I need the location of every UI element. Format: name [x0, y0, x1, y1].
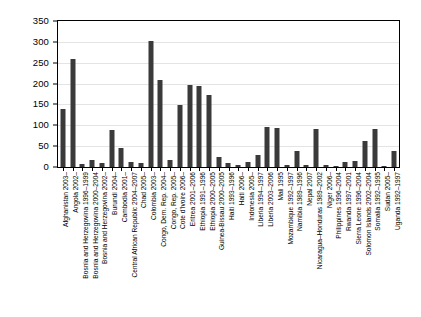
x-axis-tick-label-text: Uganda 1992–1997	[393, 172, 400, 230]
x-axis-tick-label-text: Bosnia and Herzegovina 2000–2004	[91, 172, 98, 279]
x-axis-tick-mark	[394, 168, 395, 171]
x-axis-tick-label: Sierra Leone 1996–2004	[358, 99, 365, 172]
x-axis-tick-label-text: Rwanda 1997–2001	[345, 172, 352, 231]
x-axis-tick-mark	[112, 168, 113, 171]
y-axis-tick-label: 200	[33, 79, 49, 89]
x-axis-tick-label-text: Liberia 1994–1997	[257, 172, 264, 227]
x-axis-tick-label-text: Ethiopia 2000–2005	[208, 172, 215, 231]
x-axis-tick-label: Guinea-Bissau 2000–2005	[221, 94, 228, 172]
x-axis-tick-label: Rwanda 1997–2001	[348, 113, 355, 172]
x-axis-tick-label: Liberia 2003–2006	[270, 117, 277, 172]
x-axis-tick-label-text: Cote d'Ivoire 2006–	[179, 172, 186, 229]
x-axis-tick-mark	[248, 168, 249, 171]
x-axis-tick-label-text: Afghanistan 2003–	[62, 172, 69, 227]
x-axis-tick-label: Mali 1995	[280, 143, 287, 172]
x-axis-tick-mark	[190, 168, 191, 171]
y-axis-tick-mark	[53, 104, 57, 105]
x-axis-tick-label-text: Chad 2005–	[140, 172, 147, 208]
x-axis-tick-mark	[92, 168, 93, 171]
y-axis-tick-label: 300	[33, 37, 49, 47]
x-axis-tick-label-text: Solomon Islands 2002–2004	[364, 172, 371, 256]
x-axis-tick-mark	[82, 168, 83, 171]
x-axis-tick-label: Eritrea 2001–2006	[192, 118, 199, 172]
x-axis-tick-label: Solomon Islands 2002–2004	[368, 88, 375, 172]
x-axis-tick-mark	[219, 168, 220, 171]
x-axis-tick-label-text: Mozambique 1992–1997	[286, 172, 293, 245]
x-axis-tick-label-text: Colombia 2003–	[150, 172, 157, 220]
x-axis-tick-mark	[209, 168, 210, 171]
x-axis-tick-label: Indonesia 2005–	[251, 123, 258, 172]
y-axis-tick-mark	[53, 167, 57, 168]
x-axis-tick-label: Nicaragua–Honduras 1989–2002	[319, 75, 326, 172]
y-axis-tick-label: 350	[33, 16, 49, 26]
bar-chart: 050100150200250300350 Afghanistan 2003–A…	[0, 0, 421, 317]
x-axis-tick-label: Congo, Dem. Rep. 2004–	[163, 97, 170, 172]
x-axis-tick-label: Bosnia and Herzegovina 2000–2004	[95, 65, 102, 172]
x-axis-tick-mark	[355, 168, 356, 171]
x-axis-tick-label: Bosnia and Herzegovina 2002–	[104, 80, 111, 172]
x-axis-tick-label-text: Indonesia 2005–	[247, 172, 254, 221]
x-axis-tick-label-text: Bosnia and Herzegovina 2002–	[101, 172, 108, 264]
x-axis-tick-label-text: Bosnia and Herzegovina 1996–1999	[81, 172, 88, 279]
x-axis-tick-label: Philippines 1996–2004	[338, 105, 345, 172]
y-axis-tick-label: 0	[44, 162, 49, 172]
x-axis-tick-mark	[229, 168, 230, 171]
x-axis-tick-label-text: Central African Republic 2004–2007	[130, 172, 137, 278]
x-axis-tick-mark	[336, 168, 337, 171]
x-axis-tick-label: Nepal 2007	[309, 138, 316, 172]
x-axis-tick-label-text: Somalia 1992–1995	[374, 172, 381, 231]
x-axis-tick-label-text: Mali 1995	[276, 172, 283, 201]
x-axis-tick-mark	[306, 168, 307, 171]
x-axis-tick-label: Cote d'Ivoire 2006–	[182, 115, 189, 172]
x-axis-tick-label: Haiti 1993–1996	[231, 124, 238, 172]
x-axis-tick-mark	[160, 168, 161, 171]
x-axis-tick-label: Afghanistan 2003–	[65, 117, 72, 172]
x-axis-tick-label-text: Nicaragua–Honduras 1989–2002	[315, 172, 322, 269]
x-axis-tick-mark	[326, 168, 327, 171]
x-axis-tick-mark	[141, 168, 142, 171]
x-axis-tick-mark	[238, 168, 239, 171]
x-axis-tick-mark	[73, 168, 74, 171]
x-axis-tick-label: Namibia 1989–1996	[299, 113, 306, 172]
x-axis-tick-label: Haiti 2006–	[241, 139, 248, 172]
y-axis-tick-mark	[53, 41, 57, 42]
x-axis-tick-label: Central African Republic 2004–2007	[134, 66, 141, 172]
x-axis-tick-mark	[131, 168, 132, 171]
x-axis-tick-mark	[297, 168, 298, 171]
x-axis-tick-mark	[277, 168, 278, 171]
x-axis-tick-label: Chad 2005–	[143, 136, 150, 172]
y-axis-tick-mark	[53, 62, 57, 63]
x-axis-tick-label-text: Eritrea 2001–2006	[189, 172, 196, 226]
x-axis-tick-mark	[287, 168, 288, 171]
x-axis-tick-label-text: Congo, Dem. Rep. 2004–	[159, 172, 166, 247]
y-axis-tick-mark	[53, 83, 57, 84]
x-axis-tick-label: Burundi 2004–	[114, 129, 121, 172]
x-axis-tick-mark	[151, 168, 152, 171]
x-axis-tick-mark	[267, 168, 268, 171]
x-axis-tick-label: Colombia 2003–	[153, 124, 160, 172]
x-axis-tick-label-text: Niger 2006–	[325, 172, 332, 208]
x-axis-tick-label: Somalia 1992–1995	[377, 113, 384, 172]
x-axis-tick-label-text: Nepal 2007	[306, 172, 313, 206]
x-axis-tick-label: Sudan 2005–	[387, 133, 394, 172]
x-axis-tick-label: Niger 2006–	[329, 136, 336, 172]
x-axis-tick-label: Ethiopia 2000–2005	[212, 113, 219, 172]
x-axis-tick-label-text: Ethiopia 1991–1996	[198, 172, 205, 231]
x-axis-tick-mark	[102, 168, 103, 171]
x-axis-tick-mark	[375, 168, 376, 171]
x-axis-tick-label-text: Namibia 1989–1996	[296, 172, 303, 231]
x-axis-tick-label: Liberia 1994–1997	[260, 117, 267, 172]
x-axis-tick-label: Ethiopia 1991–1996	[202, 113, 209, 172]
x-axis-tick-label-text: Liberia 2003–2006	[267, 172, 274, 227]
x-axis-tick-label: Cambodia 2001–	[124, 122, 131, 172]
x-axis-tick-mark	[345, 168, 346, 171]
x-axis-tick-mark	[180, 168, 181, 171]
x-axis-tick-label-text: Angola 2002–	[72, 172, 79, 213]
x-axis-tick-label: Congo, Rep. 2005–	[173, 115, 180, 172]
y-axis-tick-label: 100	[33, 121, 49, 131]
x-axis-tick-label: Bosnia and Herzegovina 1996–1999	[85, 65, 92, 172]
y-axis-tick-label: 250	[33, 58, 49, 68]
x-axis-tick-mark	[258, 168, 259, 171]
y-axis-tick-label: 50	[38, 141, 49, 151]
x-axis-tick-label-text: Congo, Rep. 2005–	[169, 172, 176, 229]
